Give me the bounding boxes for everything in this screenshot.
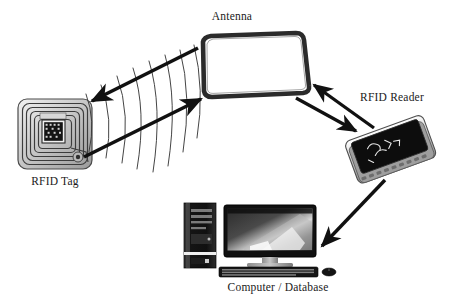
rfid-reader-icon <box>344 114 437 185</box>
computer-monitor-icon <box>224 205 316 267</box>
antenna-panel-icon <box>203 33 309 97</box>
computer-database-label: Computer / Database <box>228 281 329 294</box>
computer-mouse-icon <box>322 268 336 276</box>
arrow-antenna-to-reader <box>296 98 356 131</box>
computer-tower-icon <box>184 203 216 268</box>
rfid-tag-chip-icon <box>42 120 65 143</box>
computer-keyboard-icon <box>219 267 318 277</box>
arrow-reader-to-computer <box>322 180 385 246</box>
diagram-canvas <box>0 0 451 300</box>
antenna-label: Antenna <box>212 10 252 23</box>
rfid-reader-label: RFID Reader <box>360 91 424 104</box>
rfid-system-diagram: Antenna RFID Tag RFID Reader Computer / … <box>0 0 451 300</box>
rfid-tag-label: RFID Tag <box>31 175 79 188</box>
rfid-tag-icon <box>18 99 92 169</box>
arrow-antenna-to-tag <box>92 48 198 101</box>
desktop-computer-icon <box>184 203 336 277</box>
